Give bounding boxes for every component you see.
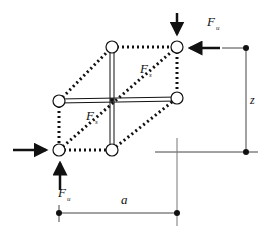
dimension-lines	[59, 48, 258, 226]
node-top-right	[171, 41, 183, 53]
dim-dot-a-left	[56, 210, 62, 216]
label-strut-upper-sub: s	[149, 71, 152, 79]
chord-horizontal-a	[59, 97, 177, 99]
dim-dot-z-top	[243, 45, 249, 51]
label-force-top: F	[206, 14, 216, 29]
label-force-top-sub: u	[216, 24, 220, 32]
label-strut-lower: F	[85, 108, 95, 123]
center-node	[110, 98, 114, 102]
compression-chords	[59, 47, 177, 150]
node-bottom-left	[53, 144, 65, 156]
label-dim-z: z	[249, 93, 255, 107]
node-mid-right	[171, 92, 183, 104]
label-force-bottom: F	[57, 185, 67, 200]
chord-horizontal-b	[59, 101, 177, 103]
dimension-dots	[56, 45, 249, 216]
dim-dot-a-right	[174, 210, 180, 216]
label-strut-lower-sub: s	[95, 118, 98, 126]
diag-upper-left	[59, 47, 112, 101]
strut-and-tie-diagram: F u F s F s F u a z	[0, 0, 274, 241]
label-force-bottom-sub: u	[67, 195, 71, 203]
node-bottom-mid	[106, 144, 118, 156]
diag-lower-right	[112, 98, 177, 150]
label-dim-a: a	[121, 192, 128, 207]
label-strut-upper: F	[139, 61, 149, 76]
dim-dot-z-bottom	[243, 149, 249, 155]
node-mid-left	[53, 95, 65, 107]
node-top-left	[106, 41, 118, 53]
